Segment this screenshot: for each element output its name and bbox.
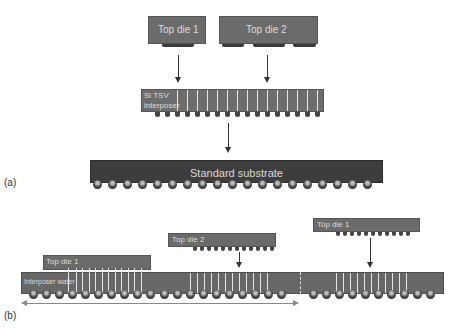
tsv: [297, 90, 298, 111]
micro-bump: [270, 247, 274, 251]
solder-ball: [264, 290, 273, 299]
solder-ball: [123, 180, 132, 189]
solder-ball: [198, 180, 207, 189]
arrow-die2-b-line: [239, 252, 240, 262]
interposer-bump: [205, 112, 210, 117]
interposer-bump: [195, 112, 200, 117]
top-die-2-label: Top die 2: [246, 24, 287, 35]
micro-bump: [399, 232, 403, 236]
micro-bump: [350, 232, 354, 236]
arrow-die1-line: [178, 55, 179, 77]
solder-ball: [288, 180, 297, 189]
micro-bump: [235, 247, 239, 251]
solder-ball: [374, 290, 383, 299]
solder-ball: [160, 290, 169, 299]
top-die-2-pad-1: [222, 44, 244, 47]
solder-ball: [81, 290, 90, 299]
solder-ball: [333, 180, 342, 189]
micro-bump: [228, 247, 232, 251]
tsv: [115, 268, 116, 294]
solder-ball: [426, 290, 435, 299]
tsv: [102, 268, 103, 294]
arrow-interposer-head-icon: [225, 147, 231, 153]
solder-ball: [238, 290, 247, 299]
solder-ball: [251, 290, 260, 299]
micro-bump: [214, 247, 218, 251]
tsv: [128, 268, 129, 294]
interposer-label-line1: Si TSV: [144, 91, 169, 100]
arrow-die2-line: [267, 55, 268, 77]
interposer-label-line2: interposer: [144, 101, 180, 110]
solder-ball: [243, 180, 252, 189]
placed-top-die-1-label: Top die 1: [46, 257, 78, 266]
solder-ball: [168, 180, 177, 189]
interposer-bump: [295, 112, 300, 117]
tsv: [217, 90, 218, 111]
micro-bump: [193, 247, 197, 251]
micro-bump: [371, 232, 375, 236]
top-die-2: Top die 2: [219, 16, 318, 44]
tsv: [385, 273, 386, 293]
arrow-die1-head-icon: [175, 77, 181, 83]
tsv: [76, 268, 77, 294]
top-die-1-pad: [162, 44, 194, 47]
micro-bump: [249, 247, 253, 251]
incoming-top-die-1-label: Top die 1: [317, 220, 349, 229]
tsv: [141, 268, 142, 294]
dicing-line: [300, 272, 301, 294]
si-tsv-interposer: Si TSV interposer: [141, 89, 324, 112]
interposer-bump: [155, 112, 160, 117]
micro-bump: [406, 232, 410, 236]
micro-bump: [378, 232, 382, 236]
tsv: [343, 273, 344, 293]
top-die-2-pad-2: [253, 44, 285, 47]
arrow-interposer-line: [228, 123, 229, 147]
solder-ball: [93, 180, 102, 189]
wafer-width-arrow-line: [24, 303, 296, 304]
tsv: [237, 90, 238, 111]
micro-bump: [221, 247, 225, 251]
micro-bump: [343, 232, 347, 236]
solder-ball: [138, 180, 147, 189]
solder-ball: [387, 290, 396, 299]
solder-ball: [133, 290, 142, 299]
solder-ball: [258, 180, 267, 189]
solder-ball: [29, 290, 38, 299]
interposer-bump: [275, 112, 280, 117]
micro-bump: [392, 232, 396, 236]
incoming-top-die-2-label: Top die 2: [172, 235, 204, 244]
micro-bump: [364, 232, 368, 236]
solder-ball: [212, 290, 221, 299]
tsv: [197, 273, 198, 293]
interposer-bump: [315, 112, 320, 117]
micro-bump: [357, 232, 361, 236]
solder-ball: [335, 290, 344, 299]
top-die-1-label: Top die 1: [158, 24, 199, 35]
panel-a-label: (a): [4, 177, 16, 188]
top-die-1: Top die 1: [148, 16, 206, 44]
arrow-die2-b-head-icon: [236, 262, 242, 268]
solder-ball: [400, 290, 409, 299]
solder-ball: [55, 290, 64, 299]
tsv: [177, 90, 178, 111]
solder-ball: [108, 180, 117, 189]
tsv: [187, 90, 188, 111]
interposer-bump: [235, 112, 240, 117]
arrow-die1-b-head-icon: [367, 262, 373, 268]
tsv: [267, 90, 268, 111]
solder-ball: [213, 180, 222, 189]
arrow-left-head-icon: [21, 300, 27, 306]
solder-ball: [120, 290, 129, 299]
solder-ball: [273, 180, 282, 189]
tsv: [227, 90, 228, 111]
solder-ball: [309, 290, 318, 299]
solder-ball: [107, 290, 116, 299]
solder-ball: [68, 290, 77, 299]
micro-bump: [256, 247, 260, 251]
tsv: [89, 268, 90, 294]
interposer-bump: [305, 112, 310, 117]
solder-ball: [94, 290, 103, 299]
interposer-bump: [165, 112, 170, 117]
tsv: [211, 273, 212, 293]
arrow-die2-head-icon: [264, 77, 270, 83]
